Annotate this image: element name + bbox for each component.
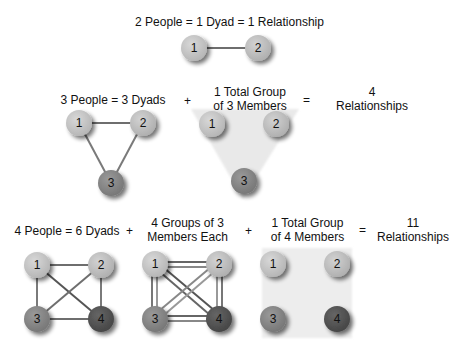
node-label-3: 3 [34, 312, 41, 326]
four-triad-groups-diagram: 1 2 3 4 [142, 251, 232, 332]
row3-groups-label-line2: Members Each [140, 230, 235, 244]
row3-result: 11 Relationships [368, 216, 458, 244]
row3-total-label-line1: 1 Total Group [260, 216, 355, 230]
node-label-1: 1 [209, 117, 216, 131]
row3-groups-label: 4 Groups of 3 Members Each [140, 216, 235, 244]
node-label-4: 4 [216, 312, 223, 326]
row2-plus: + [184, 94, 191, 108]
row3-total-label-line2: of 4 Members [260, 230, 355, 244]
node-label-2: 2 [255, 41, 262, 55]
row2-group-label: 1 Total Group of 3 Members [200, 85, 300, 113]
node-label-3: 3 [241, 174, 248, 188]
row2-dyads-label: 3 People = 3 Dyads [48, 93, 178, 107]
row3-plus-1: + [126, 224, 133, 238]
row2-group-label-line2: of 3 Members [200, 99, 300, 113]
four-member-group-diagram: 1 2 3 4 [260, 248, 352, 338]
node-label-3: 3 [108, 176, 115, 190]
row3-total-label: 1 Total Group of 4 Members [260, 216, 355, 244]
dyad-pair-diagram: 1 2 [181, 35, 271, 61]
row3-equals: = [359, 223, 366, 237]
four-person-dyads-diagram: 1 2 3 4 [24, 252, 114, 332]
node-label-4: 4 [334, 312, 341, 326]
relationships-diagram: 1 2 1 2 3 1 2 3 [0, 0, 459, 345]
row3-dyads-label: 4 People = 6 Dyads [12, 224, 122, 238]
node-label-4: 4 [98, 312, 105, 326]
row3-result-count: 11 [368, 216, 458, 230]
three-person-dyads-diagram: 1 2 3 [66, 110, 156, 196]
row3-plus-2: + [245, 224, 252, 238]
row2-result: 4 Relationships [322, 85, 422, 113]
node-label-2: 2 [334, 257, 341, 271]
row2-group-label-line1: 1 Total Group [200, 85, 300, 99]
node-label-1: 1 [191, 41, 198, 55]
node-label-1: 1 [76, 116, 83, 130]
node-label-2: 2 [140, 116, 147, 130]
node-label-2: 2 [216, 257, 223, 271]
node-label-2: 2 [98, 258, 105, 272]
row2-result-count: 4 [322, 85, 422, 99]
node-label-2: 2 [273, 117, 280, 131]
row2-equals: = [303, 93, 310, 107]
row1-title: 2 People = 1 Dyad = 1 Relationship [0, 15, 459, 29]
node-label-3: 3 [270, 312, 277, 326]
node-label-1: 1 [152, 257, 159, 271]
node-label-1: 1 [34, 258, 41, 272]
three-member-group-diagram: 1 2 3 [191, 109, 299, 199]
row3-result-unit: Relationships [368, 230, 458, 244]
node-label-3: 3 [152, 312, 159, 326]
node-label-1: 1 [270, 257, 277, 271]
row3-groups-label-line1: 4 Groups of 3 [140, 216, 235, 230]
row2-result-unit: Relationships [322, 99, 422, 113]
